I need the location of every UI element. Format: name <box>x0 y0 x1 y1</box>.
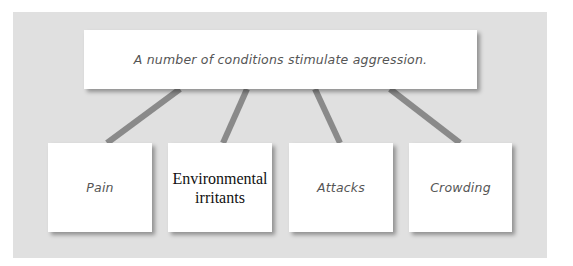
connector-attacks <box>315 89 340 143</box>
connector-pain <box>107 89 180 143</box>
connector-environmental <box>223 89 247 143</box>
node-crowding: Crowding <box>409 143 512 232</box>
connector-crowding <box>390 89 460 143</box>
node-label: Environmental irritants <box>170 169 270 207</box>
node-attacks: Attacks <box>289 143 393 232</box>
node-environmental-irritants: Environmental irritants <box>168 143 272 232</box>
node-label: Crowding <box>430 180 491 195</box>
node-label: Pain <box>86 180 113 195</box>
node-pain: Pain <box>48 143 152 232</box>
node-label: Attacks <box>317 180 365 195</box>
root-label: A number of conditions stimulate aggress… <box>134 52 427 67</box>
root-node: A number of conditions stimulate aggress… <box>84 30 477 89</box>
